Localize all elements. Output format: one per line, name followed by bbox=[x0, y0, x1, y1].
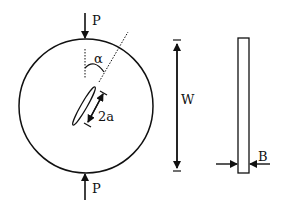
diagram-canvas: P P α 2a W B bbox=[0, 0, 286, 205]
crack-length-label: 2a bbox=[98, 109, 114, 124]
crack-axis-line bbox=[99, 32, 128, 82]
width-label: W bbox=[181, 92, 195, 107]
disc-side-view bbox=[238, 38, 249, 173]
angle-label: α bbox=[94, 51, 103, 66]
thickness-label: B bbox=[258, 149, 268, 164]
load-label-bottom: P bbox=[92, 181, 101, 196]
crack-dimension-tick-bottom bbox=[84, 123, 91, 127]
disc bbox=[19, 39, 153, 173]
load-label-top: P bbox=[92, 13, 101, 28]
crack bbox=[70, 85, 97, 126]
